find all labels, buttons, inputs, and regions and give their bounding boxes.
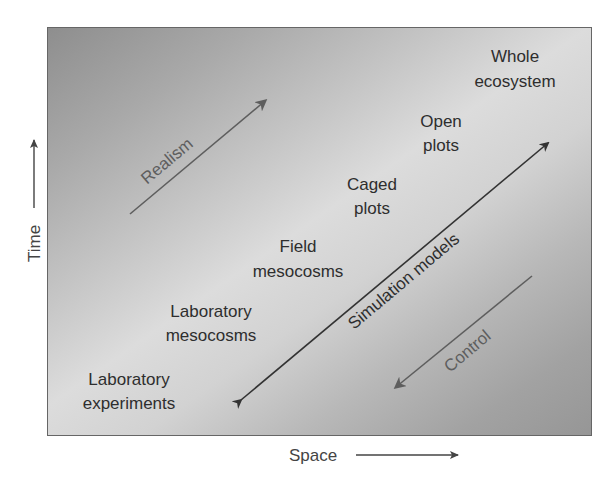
x-axis-label: Space: [289, 446, 337, 465]
realism-label: Realism: [137, 134, 196, 188]
category-line1: Laboratory: [170, 302, 252, 321]
realism-arrow-group: Realism: [130, 101, 265, 214]
category-field-mesocosms: Field mesocosms: [253, 237, 344, 281]
category-line2: plots: [423, 136, 459, 155]
category-caged-plots: Caged plots: [347, 175, 397, 218]
control-arrow-group: Control: [396, 276, 532, 387]
category-line2: mesocosms: [253, 262, 344, 281]
category-laboratory-experiments: Laboratory experiments: [83, 370, 176, 413]
category-line2: ecosystem: [474, 72, 555, 91]
category-laboratory-mesocosms: Laboratory mesocosms: [166, 302, 257, 345]
category-whole-ecosystem: Whole ecosystem: [474, 47, 555, 91]
x-axis-label-group: Space: [289, 446, 458, 465]
diagram-overlay: Time Space Realism Simulation models Con…: [0, 0, 615, 491]
category-line1: Open: [420, 112, 462, 131]
control-label: Control: [440, 326, 494, 376]
category-line1: Field: [280, 237, 317, 256]
control-arrow: [396, 276, 532, 387]
category-line1: Caged: [347, 175, 397, 194]
ecological-experiment-scale-diagram: Time Space Realism Simulation models Con…: [0, 0, 615, 491]
category-line2: experiments: [83, 394, 176, 413]
category-line2: mesocosms: [166, 326, 257, 345]
category-line1: Laboratory: [88, 370, 170, 389]
category-line2: plots: [354, 199, 390, 218]
realism-arrow: [130, 101, 265, 214]
category-line1: Whole: [491, 47, 539, 66]
y-axis-label: Time: [25, 225, 44, 262]
simulation-models-label: Simulation models: [344, 229, 463, 333]
category-open-plots: Open plots: [420, 112, 462, 155]
y-axis-label-group: Time: [25, 140, 44, 262]
